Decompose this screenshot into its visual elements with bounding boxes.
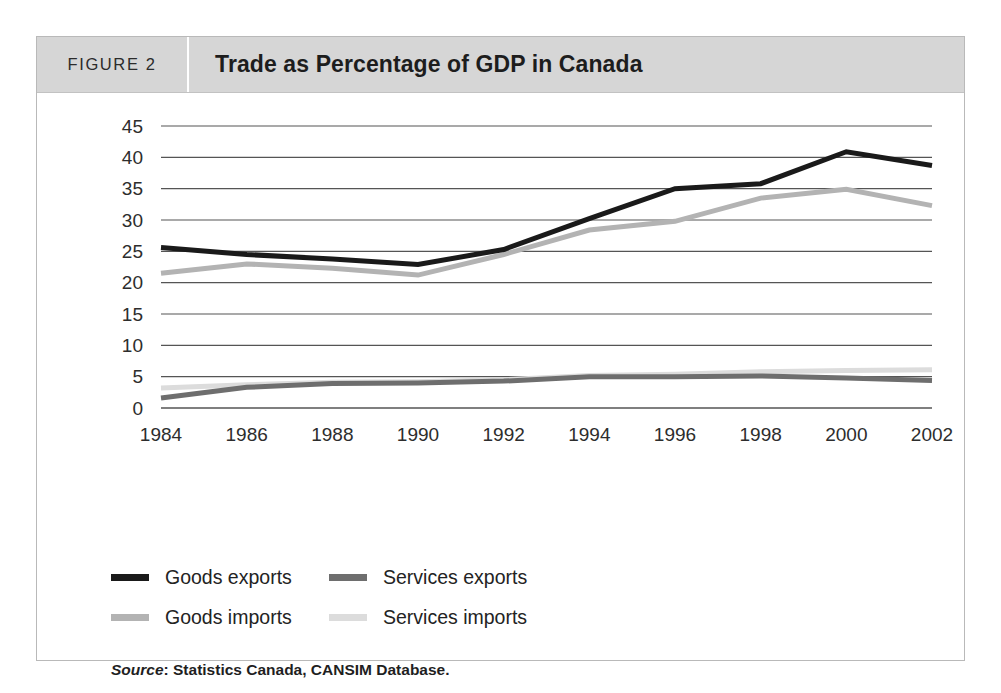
- x-axis-tick-labels: 1984198619881990199219941996199820002002: [140, 424, 953, 445]
- x-axis-tick-label: 1986: [226, 424, 268, 445]
- source-note: Source: Statistics Canada, CANSIM Databa…: [111, 661, 450, 679]
- figure-number-label: FIGURE 2: [68, 55, 157, 74]
- y-axis-tick-label: 15: [122, 304, 143, 325]
- x-axis-tick-label: 1998: [740, 424, 782, 445]
- legend-swatch-services-imports: [329, 614, 367, 621]
- y-axis-tick-label: 25: [122, 241, 143, 262]
- figure-frame: FIGURE 2 Trade as Percentage of GDP in C…: [36, 36, 965, 661]
- x-axis-tick-label: 1992: [483, 424, 525, 445]
- chart-legend: Goods exports Services exports Goods imp…: [111, 557, 631, 637]
- legend-label-services-imports: Services imports: [383, 606, 527, 629]
- legend-row: Goods imports Services imports: [111, 597, 631, 637]
- figure-number-cell: FIGURE 2: [37, 37, 189, 92]
- y-axis-tick-labels: 051015202530354045: [122, 116, 143, 419]
- x-axis-tick-label: 1984: [140, 424, 183, 445]
- legend-label-goods-exports: Goods exports: [165, 566, 292, 589]
- source-text: : Statistics Canada, CANSIM Database.: [164, 661, 450, 678]
- legend-item-services-exports[interactable]: Services exports: [329, 557, 589, 597]
- x-axis-tick-label: 2002: [911, 424, 953, 445]
- x-axis-tick-label: 1994: [568, 424, 611, 445]
- legend-swatch-services-exports: [329, 574, 367, 581]
- legend-item-goods-exports[interactable]: Goods exports: [111, 557, 329, 597]
- legend-row: Goods exports Services exports: [111, 557, 631, 597]
- series-line-services-exports: [161, 376, 932, 398]
- y-axis-tick-label: 40: [122, 147, 143, 168]
- series-line-goods-exports: [161, 152, 932, 265]
- y-axis-tick-label: 10: [122, 335, 143, 356]
- figure-title-cell: Trade as Percentage of GDP in Canada: [189, 37, 964, 92]
- plot-region: 051015202530354045 198419861988199019921…: [37, 93, 964, 660]
- x-axis-tick-label: 1996: [654, 424, 696, 445]
- legend-swatch-goods-imports: [111, 614, 149, 621]
- y-axis-tick-label: 45: [122, 116, 143, 137]
- y-axis-tick-label: 20: [122, 272, 143, 293]
- y-axis-tick-label: 5: [132, 366, 143, 387]
- x-axis-tick-label: 2000: [825, 424, 867, 445]
- legend-label-goods-imports: Goods imports: [165, 606, 292, 629]
- legend-item-goods-imports[interactable]: Goods imports: [111, 597, 329, 637]
- x-axis-tick-label: 1988: [311, 424, 353, 445]
- y-axis-tick-label: 0: [132, 398, 143, 419]
- x-axis-tick-label: 1990: [397, 424, 439, 445]
- legend-label-services-exports: Services exports: [383, 566, 527, 589]
- y-axis-tick-label: 35: [122, 178, 143, 199]
- legend-swatch-goods-exports: [111, 574, 149, 581]
- y-axis-tick-label: 30: [122, 210, 143, 231]
- legend-item-services-imports[interactable]: Services imports: [329, 597, 589, 637]
- source-label: Source: [111, 661, 164, 678]
- figure-header: FIGURE 2 Trade as Percentage of GDP in C…: [37, 37, 964, 93]
- page-title: Trade as Percentage of GDP in Canada: [215, 51, 643, 78]
